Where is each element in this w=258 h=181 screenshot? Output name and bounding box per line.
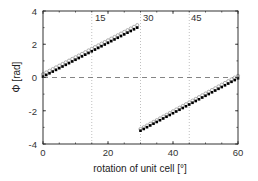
data-point	[113, 35, 116, 38]
data-point	[162, 117, 165, 120]
data-point	[165, 115, 168, 118]
data-point	[116, 36, 119, 39]
phase-vs-rotation-chart: 15 30 45 4 2 0 -2 -4 0 20 40 60 rotation…	[0, 0, 258, 181]
data-point	[168, 114, 171, 117]
data-point	[45, 74, 48, 77]
data-point	[133, 28, 136, 31]
y-axis-label: Φ [rad]	[11, 61, 22, 92]
data-point	[103, 40, 106, 43]
data-point	[113, 38, 116, 41]
data-point	[55, 69, 58, 72]
data-point	[155, 121, 158, 124]
vline-label-30: 30	[143, 12, 154, 23]
data-point	[175, 110, 178, 113]
data-point	[48, 69, 51, 72]
data-point	[126, 31, 129, 34]
data-point	[54, 66, 57, 69]
data-point	[188, 103, 191, 106]
data-point	[116, 34, 119, 37]
data-point	[71, 57, 74, 60]
data-point	[227, 82, 230, 85]
data-point	[233, 79, 236, 82]
xtick-label-60: 60	[233, 147, 244, 158]
data-point	[87, 52, 90, 55]
xtick-label-20: 20	[103, 147, 114, 158]
data-point	[136, 26, 139, 29]
data-point	[90, 50, 93, 53]
data-point	[230, 78, 233, 81]
data-point	[132, 25, 135, 28]
data-point	[45, 71, 48, 74]
data-point	[191, 101, 194, 104]
data-point	[90, 47, 93, 50]
vline-label-15: 15	[95, 12, 106, 23]
data-point	[159, 119, 162, 122]
ytick-label-0: 0	[32, 72, 37, 83]
data-point	[142, 128, 145, 131]
data-point	[80, 52, 83, 55]
data-point	[58, 64, 61, 67]
data-point	[51, 70, 54, 73]
data-point	[123, 30, 126, 33]
data-point	[64, 64, 67, 67]
data-point	[207, 93, 210, 96]
data-point	[87, 49, 90, 52]
data-point	[61, 62, 64, 65]
data-point	[51, 68, 54, 71]
data-point	[61, 65, 64, 68]
data-point	[230, 81, 233, 84]
data-point	[97, 44, 100, 47]
data-point	[84, 51, 87, 54]
data-point	[119, 32, 122, 35]
data-point	[123, 33, 126, 36]
data-point	[220, 86, 223, 89]
xtick-label-40: 40	[168, 147, 179, 158]
ytick-label-m4: -4	[29, 139, 37, 150]
data-point	[152, 122, 155, 125]
vline-label-45: 45	[191, 12, 202, 23]
data-point	[181, 107, 184, 110]
data-point	[201, 96, 204, 99]
data-point	[224, 84, 227, 87]
data-point	[211, 91, 214, 94]
data-point	[178, 108, 181, 111]
data-point	[77, 54, 80, 57]
data-point	[93, 46, 96, 49]
data-point	[110, 40, 113, 43]
data-point	[146, 126, 149, 129]
data-point	[67, 59, 70, 62]
data-point	[120, 35, 123, 38]
data-point	[107, 42, 110, 45]
data-point	[64, 61, 67, 64]
data-point	[129, 27, 132, 30]
reference-lines	[43, 11, 238, 144]
data-point	[71, 60, 74, 63]
data-point	[74, 58, 77, 61]
data-point	[126, 29, 129, 32]
data-point	[58, 67, 61, 70]
data-point	[100, 42, 103, 45]
ytick-label-4: 4	[32, 6, 37, 17]
data-point	[97, 47, 100, 50]
data-point	[139, 129, 142, 132]
ytick-label-2: 2	[32, 39, 37, 50]
data-point	[217, 88, 220, 91]
data-point	[103, 43, 106, 46]
data-point	[136, 24, 139, 27]
data-point	[94, 48, 97, 51]
data-point	[68, 62, 71, 65]
data-point	[194, 100, 197, 103]
data-point	[214, 89, 217, 92]
data-point	[172, 112, 175, 115]
data-point	[74, 56, 77, 59]
data-point	[129, 30, 132, 33]
data-point	[77, 57, 80, 60]
data-point	[110, 37, 113, 40]
data-point	[84, 53, 87, 56]
data-point	[100, 45, 103, 48]
x-axis-label: rotation of unit cell [°]	[93, 163, 187, 174]
ytick-label-m2: -2	[29, 106, 37, 117]
data-point	[149, 124, 152, 127]
data-point	[198, 98, 201, 101]
data-point	[185, 105, 188, 108]
